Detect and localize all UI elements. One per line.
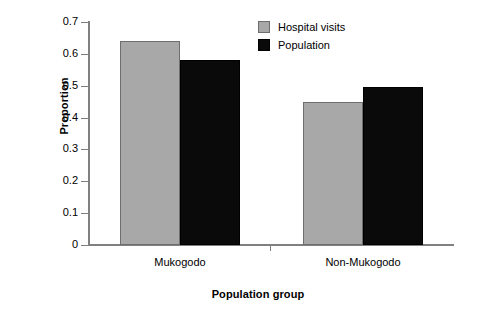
y-axis-tick bbox=[81, 118, 88, 119]
y-axis-title: Proportion bbox=[58, 56, 70, 156]
legend-label: Population bbox=[278, 39, 330, 51]
legend-swatch-icon-black bbox=[258, 39, 270, 51]
y-axis-tick bbox=[81, 213, 88, 214]
legend-swatch-icon-gray bbox=[258, 21, 270, 33]
bar bbox=[180, 60, 240, 245]
y-axis-tick bbox=[81, 54, 88, 55]
y-axis-tick-label: 0 bbox=[44, 239, 78, 250]
bar bbox=[363, 87, 423, 245]
bar-chart: Proportion 00.10.20.30.40.50.60.7 Mukogo… bbox=[0, 0, 487, 315]
y-axis-tick bbox=[81, 86, 88, 87]
legend-item-hospital-visits: Hospital visits bbox=[258, 18, 345, 36]
plot-area bbox=[88, 22, 454, 245]
y-axis-tick-label: 0.6 bbox=[44, 48, 78, 59]
y-axis-tick-label: 0.4 bbox=[44, 112, 78, 123]
y-axis-tick-label: 0.7 bbox=[44, 16, 78, 27]
x-axis-category-label: Non-Mukogodo bbox=[293, 256, 433, 268]
y-axis-tick-label: 0.1 bbox=[44, 207, 78, 218]
y-axis-tick bbox=[81, 181, 88, 182]
y-axis-tick-label: 0.3 bbox=[44, 143, 78, 154]
y-axis-tick bbox=[81, 149, 88, 150]
legend: Hospital visits Population bbox=[258, 18, 345, 54]
bar bbox=[120, 41, 180, 245]
y-axis-tick bbox=[81, 245, 88, 246]
y-axis-tick-label: 0.5 bbox=[44, 80, 78, 91]
bar bbox=[303, 102, 363, 245]
y-axis-tick bbox=[81, 22, 88, 23]
x-axis-title: Population group bbox=[88, 288, 428, 300]
legend-item-population: Population bbox=[258, 36, 345, 54]
x-axis-category-separator-tick bbox=[270, 246, 271, 251]
x-axis-category-label: Mukogodo bbox=[110, 256, 250, 268]
legend-label: Hospital visits bbox=[278, 21, 345, 33]
y-axis-tick-label: 0.2 bbox=[44, 175, 78, 186]
